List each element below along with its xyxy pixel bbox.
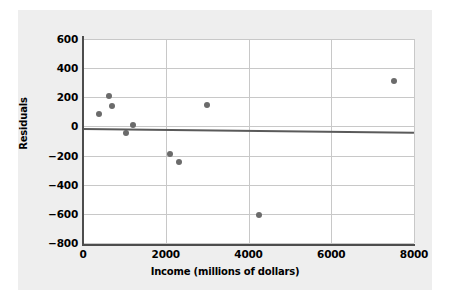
y-tick-label: −800	[48, 237, 78, 249]
x-axis-spine	[82, 244, 415, 246]
y-tick-label: −200	[48, 150, 78, 162]
x-tick-label: 0	[79, 248, 86, 260]
gridline-vertical	[166, 39, 167, 243]
y-tick-label: 0	[71, 120, 78, 132]
y-axis-spine	[82, 36, 84, 246]
y-tick-label: −400	[48, 179, 78, 191]
x-tick-label: 6000	[317, 248, 345, 260]
y-axis-title: Residuals	[18, 84, 29, 164]
x-axis-title: Income (millions of dollars)	[0, 266, 450, 277]
data-point	[167, 151, 173, 157]
y-tick-label: 600	[57, 33, 78, 45]
x-tick-label: 2000	[152, 248, 180, 260]
data-point	[391, 78, 397, 84]
data-point	[123, 130, 129, 136]
x-tick-label: 8000	[400, 248, 428, 260]
y-tick-label: 200	[57, 91, 78, 103]
residual-plot-figure: 6004002000−200−400−600−800 0200040006000…	[0, 0, 450, 305]
data-point	[96, 111, 102, 117]
data-point	[176, 159, 182, 165]
data-point	[204, 102, 210, 108]
gridline-vertical	[249, 39, 250, 243]
plot-area	[83, 39, 414, 243]
gridline-vertical	[331, 39, 332, 243]
data-point	[130, 122, 136, 128]
y-tick-label: −600	[48, 208, 78, 220]
data-point	[109, 103, 115, 109]
data-point	[256, 212, 262, 218]
gridline-vertical	[414, 39, 415, 243]
x-tick-label: 4000	[234, 248, 262, 260]
y-tick-label: 400	[57, 62, 78, 74]
